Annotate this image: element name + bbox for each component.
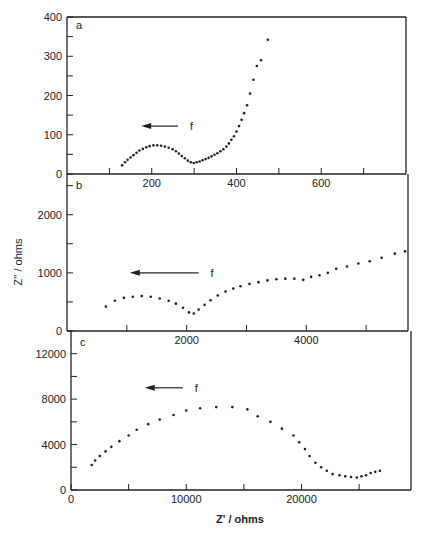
data-point (235, 130, 238, 133)
data-point (256, 415, 259, 418)
data-point (158, 297, 161, 300)
data-point (284, 277, 287, 280)
data-point (193, 312, 196, 315)
data-point (209, 299, 212, 302)
data-point (121, 164, 124, 167)
data-point (314, 461, 317, 464)
data-point (188, 311, 191, 314)
data-point (184, 157, 187, 160)
data-point (230, 139, 233, 142)
data-point (215, 406, 218, 409)
data-point (126, 159, 129, 162)
data-point (124, 161, 127, 164)
data-point (249, 92, 252, 95)
data-point (374, 471, 377, 474)
data-point (304, 448, 307, 451)
data-point (207, 157, 210, 160)
data-point (213, 153, 216, 156)
data-point (310, 276, 313, 279)
data-point (94, 459, 97, 462)
data-point (365, 474, 368, 477)
data-point (152, 144, 155, 147)
x-tick-label: 20000 (286, 493, 317, 505)
frequency-label: f (195, 382, 199, 394)
data-point (248, 283, 251, 286)
data-point (164, 145, 167, 148)
data-point (171, 148, 174, 151)
data-point (135, 429, 138, 432)
x-tick-label: 4000 (294, 334, 318, 346)
data-point (178, 152, 181, 155)
data-point (293, 277, 296, 280)
data-point (225, 145, 228, 148)
panel-label: a (76, 19, 83, 31)
data-point (216, 294, 219, 297)
data-point (232, 287, 235, 290)
data-point (326, 469, 329, 472)
panel-b: 01000200020004000bf (38, 174, 408, 346)
data-point (118, 440, 121, 443)
data-point (369, 472, 372, 475)
data-point (228, 142, 231, 145)
data-point (356, 476, 359, 479)
x-axis-title: Z' / ohms (216, 513, 264, 525)
data-point (189, 161, 192, 164)
data-point (239, 285, 242, 288)
data-point (368, 260, 371, 263)
data-point (147, 423, 150, 426)
data-point (172, 414, 175, 417)
data-point (210, 155, 213, 158)
arrow-head-icon (141, 123, 151, 129)
data-point (238, 125, 241, 128)
data-point (233, 135, 236, 138)
data-point (219, 150, 222, 153)
y-tick-label: 0 (56, 325, 62, 337)
data-point (99, 455, 102, 458)
data-point (266, 279, 269, 282)
data-point (240, 119, 243, 122)
data-point (327, 272, 330, 275)
arrow-head-icon (130, 270, 140, 276)
data-point (302, 279, 305, 282)
data-point (246, 408, 249, 411)
data-point (260, 59, 263, 62)
data-point (186, 159, 189, 162)
data-point (256, 65, 259, 68)
data-point (145, 146, 148, 149)
data-point (231, 406, 234, 409)
data-point (197, 308, 200, 311)
data-point (185, 409, 188, 412)
data-point (252, 79, 255, 82)
data-point (246, 104, 249, 107)
data-point (281, 427, 284, 430)
y-tick-label: 2000 (38, 209, 62, 221)
data-point (90, 464, 93, 467)
data-point (331, 473, 334, 476)
data-point (224, 290, 227, 293)
data-point (320, 466, 323, 469)
data-point (257, 281, 260, 284)
data-point (158, 418, 161, 421)
data-point (357, 262, 360, 265)
x-tick-label: 400 (227, 177, 245, 189)
data-point (167, 146, 170, 149)
data-point (182, 306, 185, 309)
y-tick-label: 12000 (35, 348, 66, 360)
y-tick-label: 200 (44, 90, 62, 102)
y-tick-label: 300 (44, 50, 62, 62)
data-point (148, 145, 151, 148)
y-tick-label: 1000 (38, 267, 62, 279)
panel-c: 0400080001200001000020000cf (35, 331, 411, 505)
data-point (140, 295, 143, 298)
data-point (181, 155, 184, 158)
data-point (269, 421, 272, 424)
frequency-label: f (190, 120, 194, 132)
data-point (350, 476, 353, 479)
y-tick-label: 8000 (42, 393, 66, 405)
nyquist-chart: 0100200300400200400600af0100020002000400… (0, 0, 422, 534)
data-point (110, 446, 113, 449)
data-point (346, 265, 349, 268)
y-tick-label: 400 (44, 11, 62, 23)
data-point (105, 305, 108, 308)
data-point (132, 154, 135, 157)
